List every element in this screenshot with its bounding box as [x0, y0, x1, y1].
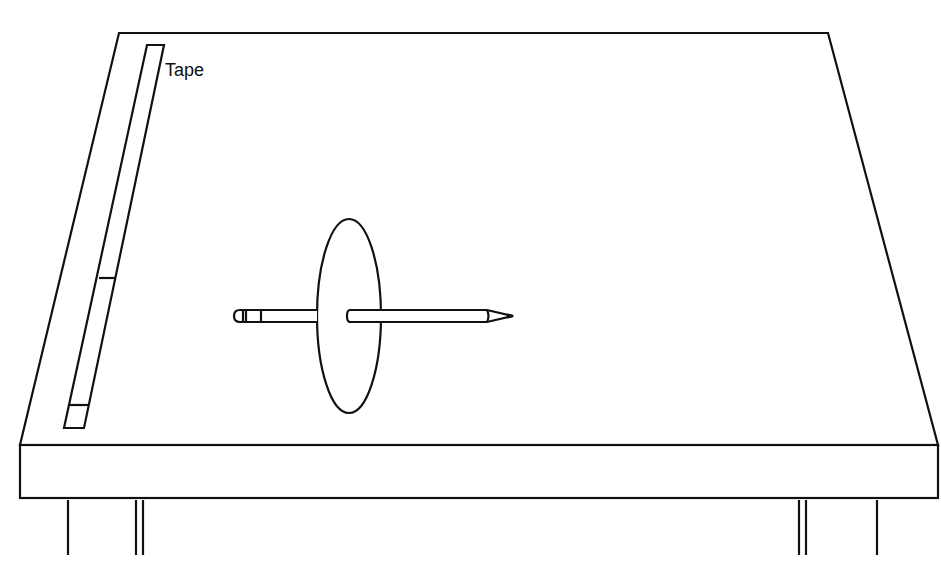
tabletop [20, 33, 938, 498]
table-legs [68, 500, 877, 555]
table-diagram [0, 0, 941, 571]
tape-label: Tape [165, 60, 204, 81]
pencil [234, 310, 513, 322]
